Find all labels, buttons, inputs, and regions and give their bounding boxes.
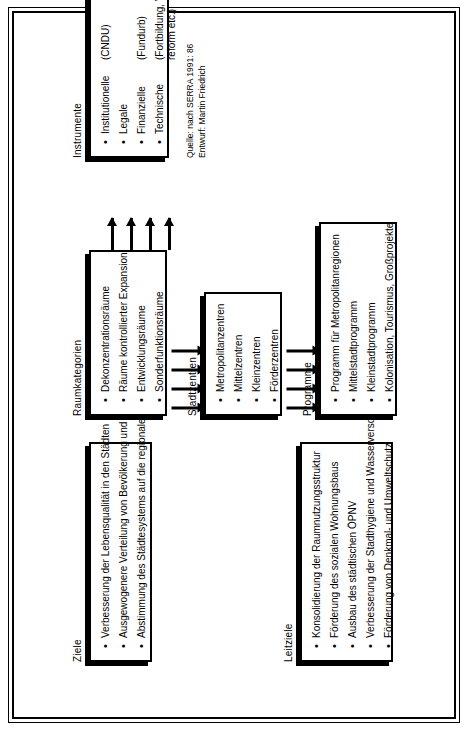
instrumente-item: Institutionelle(CNDU)	[100, 0, 112, 144]
ziele-bullet-list: Verbesserung der Lebensqualität in den S…	[91, 444, 150, 660]
stadtzentren-item: Kleinzentren	[251, 304, 263, 402]
arrow-connector	[127, 218, 136, 250]
arrow-head-icon	[164, 217, 174, 226]
instrumente-item: Technische(Fortbildung, Verwaltungs- ref…	[154, 0, 178, 144]
ziele-item: Ausgewogenere Verteilung von Bevölkerung…	[118, 454, 130, 648]
stadtzentren-box: Metropolitanzentren Mittelzentren Kleinz…	[204, 292, 282, 416]
leitziele-title: Leitziele	[283, 623, 294, 662]
ziele-item: Verbesserung der Lebensqualität in den S…	[100, 454, 112, 648]
ziele-item: Abstimmung des Städtesystems auf die reg…	[136, 454, 148, 648]
programme-item: Kleinstadtprogramm	[366, 234, 378, 402]
instrumente-title: Instrumente	[72, 102, 83, 157]
programme-item: Kolonisation, Tourismus, Großprojekte	[384, 234, 396, 402]
programme-bullet-list: Programm für Metropolitanregionen Mittel…	[321, 224, 395, 414]
ziele-box: Verbesserung der Lebensqualität in den S…	[89, 442, 152, 662]
arrow-head-icon	[107, 217, 117, 226]
ziele-title: Ziele	[72, 639, 83, 662]
leitziele-item: Verbesserung der Stadthygiene und Wasser…	[365, 454, 377, 648]
instrumente-item-note: (Fundurb)	[136, 16, 148, 60]
leitziele-item: Förderung des sozialen Wohnungsbaus	[329, 454, 341, 648]
programme-item: Programm für Metropolitanregionen	[330, 234, 342, 402]
instrumente-item-name: Legale	[118, 60, 130, 134]
instrumente-item: Legale	[118, 0, 130, 144]
instrumente-item-name: Finanzielle	[136, 60, 148, 134]
leitziele-box: Konsolidierung der Raumnutzungsstruktur …	[300, 442, 393, 662]
raumkategorien-item: Entwicklungsräume	[136, 262, 148, 402]
stadtzentren-item: Metropolitanzentren	[215, 304, 227, 402]
arrow-connector	[165, 218, 174, 250]
arrow-connector	[108, 218, 117, 250]
diagram-page: Verbesserung der Lebensqualität in den S…	[0, 0, 469, 731]
instrumente-list: Institutionelle(CNDU) Legale Finanzielle…	[91, 0, 167, 156]
instrumente-item-name: Technische	[154, 60, 166, 134]
rotated-artwork-stage: Verbesserung der Lebensqualität in den S…	[15, 14, 455, 718]
artwork: Verbesserung der Lebensqualität in den S…	[15, 14, 455, 718]
credit-source: Quelle: nach SERRA 1991: 86	[185, 43, 196, 157]
raumkategorien-item: Sonderfunktionsräume	[154, 262, 166, 402]
instrumente-box: Institutionelle(CNDU) Legale Finanzielle…	[89, 0, 169, 158]
stadtzentren-item: Mittelzentren	[233, 304, 245, 402]
instrumente-item-name: Institutionelle	[100, 60, 112, 134]
arrow-head-icon	[145, 217, 155, 226]
raumkategorien-box: Dekonzentrationsräume Räume kontrolliert…	[89, 250, 167, 416]
raumkategorien-item: Dekonzentrationsräume	[100, 262, 112, 402]
raumkategorien-bullet-list: Dekonzentrationsräume Räume kontrolliert…	[91, 252, 165, 414]
programme-title: Programme	[302, 361, 313, 415]
stadtzentren-title: Stadtzentren	[187, 356, 198, 415]
raumkategorien-item: Räume kontrollierter Expansion	[118, 262, 130, 402]
arrow-connector	[146, 218, 155, 250]
raumkategorien-title: Raumkategorien	[72, 339, 83, 415]
credit-author: Entwurf: Martin Friedrich	[197, 65, 208, 158]
leitziele-item: Konsolidierung der Raumnutzungsstruktur	[311, 454, 323, 648]
instrumente-item: Finanzielle(Fundurb)	[136, 0, 148, 144]
instrumente-item-note: (CNDU)	[100, 24, 112, 60]
leitziele-item: Förderung von Denkmal- und Umweltschutz	[383, 454, 395, 648]
leitziele-bullet-list: Konsolidierung der Raumnutzungsstruktur …	[302, 444, 391, 660]
programme-item: Mittelstadtprogramm	[348, 234, 360, 402]
instrumente-item-note: (Fortbildung, Verwaltungs- reform etc.)	[154, 0, 178, 60]
programme-box: Programm für Metropolitanregionen Mittel…	[319, 222, 397, 416]
leitziele-item: Ausbau des städtischen ÖPNV	[347, 454, 359, 648]
arrow-head-icon	[126, 217, 136, 226]
stadtzentren-bullet-list: Metropolitanzentren Mittelzentren Kleinz…	[206, 294, 280, 414]
stadtzentren-item: Förderzentren	[269, 304, 281, 402]
